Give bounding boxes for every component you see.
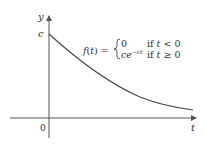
- y-axis-label: y: [37, 11, 44, 22]
- origin-label: 0: [40, 123, 46, 133]
- c-intercept-label: c: [38, 28, 44, 39]
- case1-condition: if t < 0: [147, 38, 180, 49]
- case1-value: 0: [121, 38, 127, 49]
- brace: [114, 39, 120, 59]
- formula-lhs: f(t) =: [82, 45, 109, 56]
- t-axis-label: t: [191, 122, 196, 133]
- case2-value: ce−ct: [121, 48, 143, 60]
- function-graph: y c 0 t f(t) = 0 if t < 0 ce−ct if t ≥ 0: [0, 0, 205, 146]
- case2-condition: if t ≥ 0: [147, 49, 180, 60]
- piecewise-formula: f(t) = 0 if t < 0 ce−ct if t ≥ 0: [82, 38, 180, 60]
